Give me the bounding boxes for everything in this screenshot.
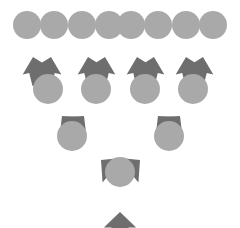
tree-node [178,74,208,104]
tree-node [40,11,68,39]
diagram-canvas [0,0,240,228]
tree-node [117,11,145,39]
tree-node [172,11,200,39]
tree-node [81,74,111,104]
tree-node [199,11,227,39]
tree-node [13,11,41,39]
node-layer [13,11,227,187]
edge-arrow-icon [104,212,136,228]
tree-diagram [0,0,240,228]
tree-node [57,121,87,151]
tree-node [68,11,96,39]
tree-node [105,157,135,187]
tree-node [130,74,160,104]
tree-node [154,121,184,151]
tree-node [33,74,63,104]
tree-node [144,11,172,39]
